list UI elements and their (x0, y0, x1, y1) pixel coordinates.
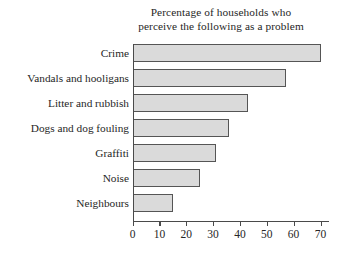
x-tick-label: 60 (279, 227, 309, 241)
x-tick-label: 30 (198, 227, 228, 241)
category-label-litter: Litter and rubbish (3, 96, 129, 110)
x-axis-line (133, 221, 329, 222)
x-tick-label: 40 (225, 227, 255, 241)
y-axis-line (133, 44, 134, 221)
bar-litter (133, 94, 249, 112)
x-tick-mark (159, 221, 160, 226)
bar-crime (133, 44, 321, 62)
x-tick-mark (240, 221, 241, 226)
category-label-vandals: Vandals and hooligans (3, 71, 129, 85)
x-tick-label: 0 (118, 227, 148, 241)
category-label-dogs: Dogs and dog fouling (3, 121, 129, 135)
x-tick-mark (294, 221, 295, 226)
x-tick-mark (267, 221, 268, 226)
chart-title: Percentage of households who perceive th… (107, 6, 335, 33)
category-axis-labels: Crime Vandals and hooligans Litter and r… (0, 44, 129, 221)
category-label-neighbours: Neighbours (3, 196, 129, 210)
bar-dogs (133, 119, 230, 137)
category-label-crime: Crime (3, 46, 129, 60)
bar-chart-figure: Percentage of households who perceive th… (0, 0, 339, 253)
bar-graffiti (133, 144, 216, 162)
x-tick-mark (133, 221, 134, 226)
x-tick-label: 10 (144, 227, 174, 241)
category-label-graffiti: Graffiti (3, 146, 129, 160)
bar-noise (133, 169, 200, 187)
bar-vandals (133, 69, 286, 87)
x-tick-label: 70 (306, 227, 336, 241)
category-label-noise: Noise (3, 171, 129, 185)
chart-title-line-1: Percentage of households who (107, 6, 335, 20)
bar-neighbours (133, 194, 173, 212)
x-tick-label: 50 (252, 227, 282, 241)
chart-title-line-2: perceive the following as a problem (107, 20, 335, 34)
x-tick-mark (213, 221, 214, 226)
x-tick-mark (321, 221, 322, 226)
x-tick-label: 20 (171, 227, 201, 241)
x-tick-mark (186, 221, 187, 226)
plot-area: 010203040506070 (133, 44, 329, 221)
